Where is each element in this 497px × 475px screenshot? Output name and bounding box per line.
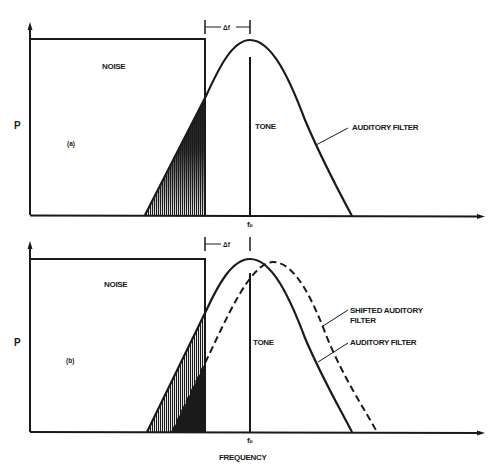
tone-label-a: TONE [255,122,277,131]
auditory-filter-diagram: Δf NOISE P (a) TONE AUDITORY FILTER f₀ [0,0,497,475]
y-axis-arrow-icon [28,241,33,249]
shifted-filter-label-line2-b: FILTER [350,316,376,325]
x-axis-arrow-icon [477,431,485,436]
x-axis-a [30,216,480,217]
tone-frequency-label-a: f₀ [247,220,253,229]
tone-label-b: TONE [253,338,275,347]
shifted-filter-leader-line-b [323,310,348,326]
auditory-filter-label-b: AUDITORY FILTER [350,338,417,347]
noise-label-a: NOISE [102,62,126,71]
y-axis-label-a: P [14,120,21,131]
filter-leader-line-a [316,128,348,145]
delta-f-label: Δf [223,241,231,248]
y-axis-arrow-icon [28,22,33,30]
panel-a: Δf NOISE P (a) TONE AUDITORY FILTER f₀ [14,20,485,229]
delta-f-marker-a: Δf [205,20,250,34]
x-axis-label: FREQUENCY [219,453,267,462]
panel-label-b: (b) [66,357,74,365]
shifted-filter-label-line1-b: SHIFTED AUDITORY [350,306,424,315]
panel-b: Δf NOISE P (b) TONE SHIFTED AUDITORY FIL… [14,237,485,462]
tone-frequency-label-b: f₀ [247,436,253,445]
delta-f-marker-b: Δf [205,237,250,251]
filter-leader-line-b [318,343,348,362]
x-axis-arrow-icon [477,214,485,219]
y-axis-label-b: P [14,337,21,348]
noise-label-b: NOISE [104,280,128,289]
delta-f-label: Δf [223,24,231,31]
x-axis-b [30,432,480,433]
auditory-filter-label-a: AUDITORY FILTER [352,123,419,132]
panel-label-a: (a) [67,140,75,148]
